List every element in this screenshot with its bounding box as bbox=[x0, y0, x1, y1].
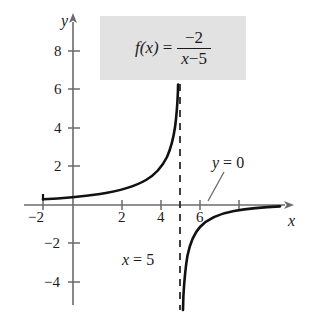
x-tick-label-4: 4 bbox=[157, 210, 165, 225]
y-tick-label-minus4: −4 bbox=[44, 275, 60, 290]
x-tick-label-2: 2 bbox=[118, 210, 126, 225]
function-graph-figure: f(x) = −2 x−5 y x −2 2 4 6 8 6 4 2 −2 −4… bbox=[0, 0, 310, 321]
y-axis-label: y bbox=[61, 13, 68, 29]
horizontal-asymptote-equals: = bbox=[223, 154, 232, 171]
x-tick-label-6: 6 bbox=[196, 210, 204, 225]
function-formula-box: f(x) = −2 x−5 bbox=[100, 16, 246, 80]
vertical-asymptote-value: 5 bbox=[146, 251, 154, 268]
y-tick-label-2: 2 bbox=[54, 159, 62, 174]
y-tick-label-8: 8 bbox=[54, 44, 62, 59]
y-axis-ticks bbox=[68, 51, 80, 282]
formula-denominator: x−5 bbox=[177, 48, 211, 68]
formula-equals-sign: = bbox=[163, 38, 173, 58]
vertical-asymptote-annotation: x = 5 bbox=[122, 252, 154, 268]
formula-function-name: f(x) bbox=[135, 38, 159, 58]
horizontal-asymptote-value: 0 bbox=[236, 154, 244, 171]
y-tick-label-4: 4 bbox=[54, 121, 62, 136]
y-tick-label-6: 6 bbox=[54, 82, 62, 97]
horizontal-asymptote-variable: y bbox=[212, 154, 219, 171]
horizontal-asymptote-annotation: y = 0 bbox=[212, 155, 244, 171]
y-equals-zero-leader-line bbox=[208, 172, 224, 201]
formula-denominator-number: 5 bbox=[198, 49, 207, 68]
function-formula: f(x) = −2 x−5 bbox=[135, 29, 211, 68]
vertical-asymptote-variable: x bbox=[122, 251, 129, 268]
formula-denominator-operator: − bbox=[189, 49, 199, 68]
formula-numerator: −2 bbox=[181, 29, 207, 48]
y-tick-label-minus2: −2 bbox=[44, 236, 60, 251]
x-tick-label-minus2: −2 bbox=[28, 210, 44, 225]
curve-left-branch bbox=[43, 85, 178, 200]
x-axis-label: x bbox=[288, 213, 295, 229]
formula-fraction: −2 x−5 bbox=[177, 29, 211, 68]
formula-denominator-variable: x bbox=[181, 49, 189, 68]
vertical-asymptote-equals: = bbox=[133, 251, 142, 268]
